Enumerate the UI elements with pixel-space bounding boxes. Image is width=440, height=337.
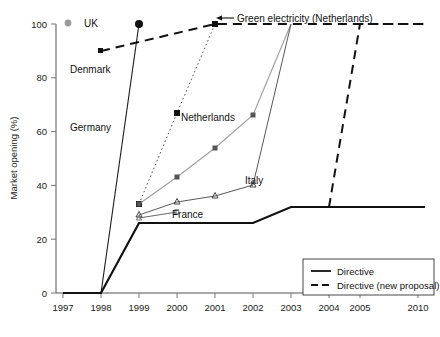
series-denmark bbox=[98, 21, 425, 53]
label-netherlands: Netherlands bbox=[181, 112, 235, 123]
x-tick-label-2004: 2004 bbox=[318, 302, 339, 313]
denmark-line bbox=[101, 24, 425, 51]
label-germany: Germany bbox=[70, 122, 111, 133]
green-electricity-marker-2000 bbox=[174, 110, 180, 116]
germany-marker-1999 bbox=[135, 20, 143, 28]
netherlands-marker-1999 bbox=[137, 202, 142, 207]
uk-marker bbox=[65, 20, 72, 27]
label-italy: Italy bbox=[245, 175, 263, 186]
x-axis: 1997 1998 1999 2000 2001 2002 2003 2004 … bbox=[52, 293, 428, 313]
x-tick-label-1997: 1997 bbox=[52, 302, 73, 313]
x-tick-label-1999: 1999 bbox=[128, 302, 149, 313]
label-green-electricity: Green electricity (Netherlands) bbox=[237, 13, 373, 24]
series-directive-new-proposal bbox=[329, 24, 425, 207]
label-denmark: Denmark bbox=[70, 64, 112, 75]
netherlands-marker-2001 bbox=[213, 146, 218, 151]
label-uk: UK bbox=[84, 18, 98, 29]
label-france: France bbox=[172, 209, 204, 220]
netherlands-marker-2002 bbox=[251, 113, 256, 118]
y-tick-label-40: 40 bbox=[36, 180, 47, 191]
x-tick-label-2003: 2003 bbox=[280, 302, 301, 313]
x-tick-label-2001: 2001 bbox=[204, 302, 225, 313]
y-tick-label-100: 100 bbox=[31, 19, 47, 30]
x-tick-label-2005: 2005 bbox=[349, 302, 370, 313]
y-axis-title: Market opening (%) bbox=[8, 117, 19, 200]
y-tick-label-80: 80 bbox=[36, 72, 47, 83]
chart-container: 100 80 60 40 20 0 Market opening (%) 199… bbox=[0, 0, 440, 337]
x-tick-label-1998: 1998 bbox=[90, 302, 111, 313]
y-axis: 100 80 60 40 20 0 Market opening (%) bbox=[8, 19, 56, 299]
green-electricity-marker-2001 bbox=[212, 21, 218, 27]
market-opening-line-chart: 100 80 60 40 20 0 Market opening (%) 199… bbox=[0, 0, 440, 337]
directive-new-proposal-line bbox=[329, 24, 425, 207]
netherlands-marker-2000 bbox=[175, 175, 180, 180]
denmark-marker-1998 bbox=[98, 48, 103, 53]
y-tick-label-0: 0 bbox=[42, 288, 47, 299]
series-uk bbox=[65, 20, 72, 27]
x-tick-label-2002: 2002 bbox=[242, 302, 263, 313]
x-tick-label-2000: 2000 bbox=[166, 302, 187, 313]
y-tick-label-60: 60 bbox=[36, 126, 47, 137]
y-tick-label-20: 20 bbox=[36, 234, 47, 245]
legend-label-directive-new-proposal: Directive (new proposal) bbox=[337, 280, 439, 291]
x-tick-label-2010: 2010 bbox=[407, 302, 428, 313]
legend-label-directive: Directive bbox=[337, 266, 374, 277]
legend: Directive Directive (new proposal) bbox=[303, 259, 439, 295]
green-electricity-arrow-icon bbox=[216, 15, 234, 20]
